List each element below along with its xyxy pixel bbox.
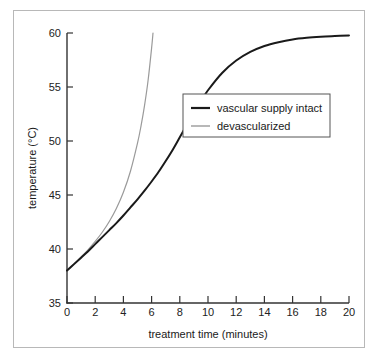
- x-tick-label: 16: [286, 306, 298, 318]
- y-tick-label: 40: [49, 243, 61, 255]
- figure-root: 0 2 4 6 8 10 12 14 16 18 20 35 40 45 50 …: [0, 0, 378, 356]
- figure-frame: 0 2 4 6 8 10 12 14 16 18 20 35 40 45 50 …: [13, 10, 365, 348]
- x-tick-label: 2: [92, 306, 98, 318]
- x-tick-label: 4: [120, 306, 126, 318]
- legend-label-vascular-supply-intact: vascular supply intact: [217, 102, 322, 114]
- x-axis-title: treatment time (minutes): [148, 328, 267, 340]
- temperature-vs-treatment-time-chart: 0 2 4 6 8 10 12 14 16 18 20 35 40 45 50 …: [14, 11, 364, 347]
- y-tick-label: 35: [49, 297, 61, 309]
- x-tick-label: 18: [315, 306, 327, 318]
- x-tick-label: 0: [64, 306, 70, 318]
- x-tick-label: 8: [177, 306, 183, 318]
- legend: vascular supply intact devascularized: [183, 94, 330, 137]
- y-tick-label: 55: [49, 81, 61, 93]
- x-tick-label: 10: [202, 306, 214, 318]
- legend-label-devascularized: devascularized: [217, 120, 290, 132]
- x-tick-label: 12: [230, 306, 242, 318]
- x-tick-label: 20: [343, 306, 355, 318]
- y-tick-label: 50: [49, 135, 61, 147]
- x-tick-label: 14: [258, 306, 270, 318]
- x-tick-label: 6: [149, 306, 155, 318]
- y-tick-label: 45: [49, 189, 61, 201]
- y-tick-label: 60: [49, 27, 61, 39]
- y-axis-title: temperature (°C): [26, 127, 38, 209]
